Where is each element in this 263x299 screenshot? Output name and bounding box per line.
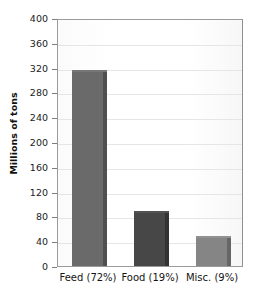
- bar-side-shadow: [165, 211, 169, 266]
- y-axis-tick-label: 120: [0, 188, 48, 198]
- plot-area: [57, 19, 243, 267]
- y-axis-tick-label: 240: [0, 113, 48, 123]
- y-axis-tick-label: 200: [0, 138, 48, 148]
- bar-top-highlight: [134, 211, 169, 213]
- bar-top-highlight: [72, 70, 107, 72]
- bar-top-highlight: [196, 236, 231, 238]
- bar-side-shadow: [103, 70, 107, 266]
- bar: [72, 70, 107, 266]
- bar-face: [72, 70, 107, 266]
- y-axis-tick-label: 0: [0, 262, 48, 272]
- bar-chart-figure: Millions of tons 04080120160200240280320…: [0, 0, 263, 299]
- y-axis-tick: [52, 267, 57, 268]
- x-axis-category-label: Feed (72%): [57, 272, 119, 284]
- bar: [134, 211, 169, 266]
- bar: [196, 236, 231, 266]
- y-axis-tick-label: 160: [0, 163, 48, 173]
- gridline: [58, 45, 242, 46]
- bar-face: [134, 211, 169, 266]
- y-axis-tick-label: 280: [0, 88, 48, 98]
- bar-face: [196, 236, 231, 266]
- y-axis-tick-label: 80: [0, 212, 48, 222]
- y-axis-tick-label: 40: [0, 237, 48, 247]
- y-axis-tick-label: 400: [0, 14, 48, 24]
- x-axis-category-label: Misc. (9%): [181, 272, 243, 284]
- y-axis-tick-label: 320: [0, 64, 48, 74]
- bar-side-shadow: [227, 236, 231, 266]
- y-axis-tick-label: 360: [0, 39, 48, 49]
- x-axis-category-label: Food (19%): [119, 272, 181, 284]
